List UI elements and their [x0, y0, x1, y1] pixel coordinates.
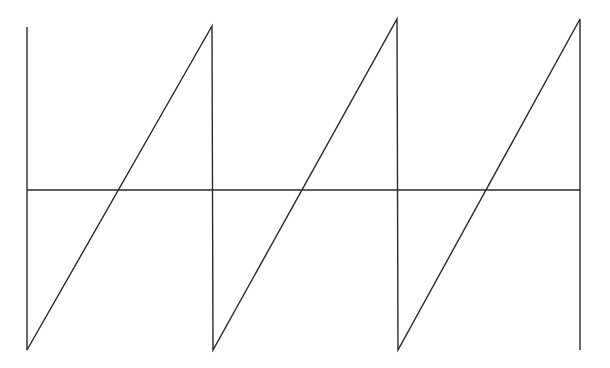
sawtooth-wave-path: [27, 19, 580, 350]
sawtooth-diagram: [0, 0, 610, 368]
sawtooth-svg: [0, 0, 610, 368]
